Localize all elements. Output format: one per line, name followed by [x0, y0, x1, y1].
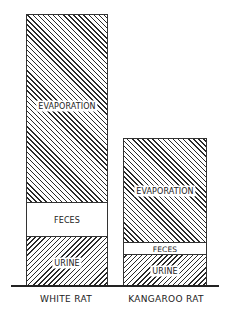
- x-axis-baseline: [11, 285, 219, 287]
- segment-label-evaporation: EVAPORATION: [134, 186, 195, 197]
- segment-label-feces: FECES: [52, 215, 82, 226]
- segment-urine-kangaroo-rat: URINE: [124, 254, 206, 287]
- segment-feces-white-rat: FECES: [27, 202, 107, 236]
- segment-feces-kangaroo-rat: FECES: [124, 242, 206, 254]
- bar-white-rat: EVAPORATION FECES URINE: [26, 14, 108, 286]
- bar-kangaroo-rat: EVAPORATION FECES URINE: [123, 138, 207, 286]
- segment-evaporation-white-rat: EVAPORATION: [27, 15, 107, 202]
- segment-label-urine: URINE: [52, 258, 81, 269]
- x-label-kangaroo-rat: KANGAROO RAT: [128, 294, 204, 304]
- segment-evaporation-kangaroo-rat: EVAPORATION: [124, 139, 206, 242]
- x-label-white-rat: WHITE RAT: [40, 294, 92, 304]
- segment-label-urine: URINE: [150, 266, 179, 277]
- segment-label-evaporation: EVAPORATION: [36, 101, 97, 112]
- segment-label-feces: FECES: [151, 245, 179, 254]
- segment-urine-white-rat: URINE: [27, 236, 107, 287]
